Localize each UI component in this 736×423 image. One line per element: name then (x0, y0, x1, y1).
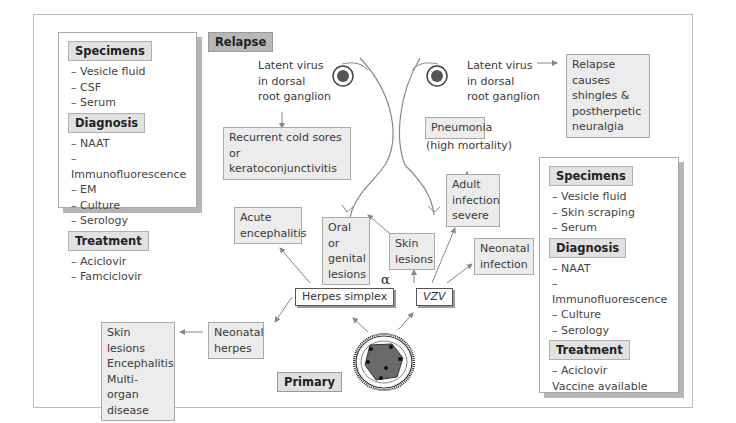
specimens-header: Specimens (68, 41, 152, 61)
primary-tag: Primary (277, 372, 342, 392)
neonatal-outcomes-box: Skin lesions Encephalitis Multi-organ di… (101, 322, 175, 421)
adult-infection-box: Adult infection severe (446, 174, 500, 227)
specimen-item: – Vesicle fluid (71, 64, 186, 80)
latent-vzv-label: Latent virus in dorsal root ganglion (467, 58, 540, 105)
high-mortality-label: (high mortality) (426, 138, 512, 154)
ganglion-cell-left-icon (333, 66, 353, 86)
treatment-header: Treatment (549, 340, 630, 360)
vzv-label: VZV (416, 288, 453, 306)
treatment-item: – Aciclovir (552, 363, 668, 379)
relapse-shingles-box: Relapse causes shingles & postherpetic n… (566, 54, 650, 138)
diagnosis-item: – Culture (552, 307, 668, 323)
diagnosis-item: – Culture (71, 198, 186, 214)
specimen-item: – Vesicle fluid (552, 189, 668, 205)
herpes-simplex-label: Herpes simplex (295, 288, 394, 306)
ganglion-cell-right-icon (427, 66, 447, 86)
diagnosis-item: – Immunofluorescence (552, 276, 668, 307)
recurrent-cold-sores-box: Recurrent cold sores or keratoconjunctiv… (223, 127, 351, 180)
diagnosis-item: – Immunofluorescence (71, 151, 186, 182)
diagnosis-item: – NAAT (552, 261, 668, 277)
pneumonia-box: Pneumonia (425, 117, 485, 139)
neonatal-infection-box: Neonatal infection (474, 238, 534, 275)
specimen-item: – Serum (552, 220, 668, 236)
diagnosis-item: – Serology (71, 213, 186, 229)
diagnosis-item: – Serology (552, 323, 668, 339)
treatment-item: – Aciclovir (71, 254, 186, 270)
acute-encephalitis-box: Acute encephalitis (234, 207, 302, 244)
herpesvirus-particle-icon (354, 334, 414, 390)
specimen-item: – Skin scraping (552, 205, 668, 221)
treatment-header: Treatment (68, 231, 149, 251)
treatment-item: – Famciclovir (71, 269, 186, 285)
vzv-lab-panel: Specimens – Vesicle fluid – Skin scrapin… (539, 157, 679, 393)
relapse-tag: Relapse (208, 32, 273, 52)
hsv-lab-panel: Specimens – Vesicle fluid – CSF – Serum … (58, 32, 197, 208)
specimen-item: – CSF (71, 80, 186, 96)
alpha-symbol: α (381, 272, 390, 287)
latent-hsv-label: Latent virus in dorsal root ganglion (258, 58, 331, 105)
diagnosis-item: – EM (71, 182, 186, 198)
diagnosis-item: – NAAT (71, 136, 186, 152)
treatment-item: Vaccine available (552, 379, 668, 395)
skin-lesions-box: Skin lesions (389, 233, 435, 270)
diagnosis-header: Diagnosis (549, 238, 626, 258)
diagnosis-header: Diagnosis (68, 113, 145, 133)
neonatal-herpes-box: Neonatal herpes (208, 322, 264, 359)
specimen-item: – Serum (71, 95, 186, 111)
oral-genital-lesions-box: Oral or genital lesions (322, 217, 370, 285)
specimens-header: Specimens (549, 166, 633, 186)
